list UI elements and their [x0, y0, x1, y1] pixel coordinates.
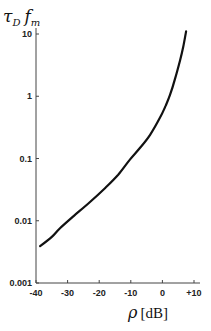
y-tick-label: 10: [22, 29, 32, 39]
x-tick-label: 0: [160, 288, 165, 298]
y-tick-label: 0.1: [19, 154, 32, 164]
x-axis-label: ρ[dB]: [127, 303, 168, 322]
chart: τDfm 0.0010.010.1110 -40-30-20-100+10 ρ[…: [0, 0, 211, 331]
x-tick-label: -40: [29, 288, 42, 298]
x-tick-label: -30: [61, 288, 74, 298]
y-axis-label: τDfm: [3, 6, 40, 28]
y-tick-label: 0.01: [14, 216, 32, 226]
x-tick-label: -20: [93, 288, 106, 298]
y-tick-label: 1: [27, 91, 32, 101]
y-ticks: 0.0010.010.1110: [9, 29, 39, 288]
x-tick-label: -10: [124, 288, 137, 298]
data-curve: [40, 31, 186, 246]
y-tick-label: 0.001: [9, 278, 32, 288]
x-tick-label: +10: [186, 288, 201, 298]
